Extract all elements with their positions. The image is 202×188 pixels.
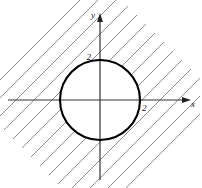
math-figure: 2 2 x y <box>0 0 202 188</box>
tick-marks <box>96 60 140 104</box>
x-axis-arrowhead <box>182 97 191 103</box>
y-axis-label: y <box>90 10 95 20</box>
x-axis-label: x <box>190 99 195 109</box>
figure-canvas: 2 2 x y <box>0 0 202 188</box>
tick-label-x-2: 2 <box>142 103 147 113</box>
tick-label-y-2: 2 <box>87 52 92 62</box>
